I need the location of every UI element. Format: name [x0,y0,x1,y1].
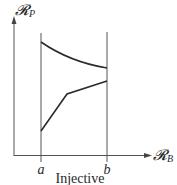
y-axis-label: 𝓡P [15,2,35,19]
tick-label-a: a [38,162,45,177]
upper-curve [41,42,107,68]
tick-label-b: b [104,162,111,177]
x-axis-label: 𝓡B [153,147,173,164]
lower-curve [41,81,107,131]
injective-diagram: 𝓡P 𝓡B a b Injective [0,0,177,185]
caption: Injective [56,171,105,185]
x-axis-arrow-icon [144,153,152,158]
x-axis [14,153,152,158]
y-axis [12,16,17,156]
